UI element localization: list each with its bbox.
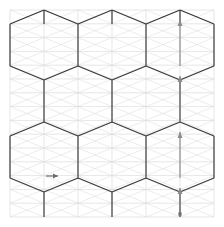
hexagonal-lattice-svg	[0, 0, 224, 227]
dimension-end-marker	[178, 212, 181, 215]
lattice-figure	[0, 0, 224, 227]
